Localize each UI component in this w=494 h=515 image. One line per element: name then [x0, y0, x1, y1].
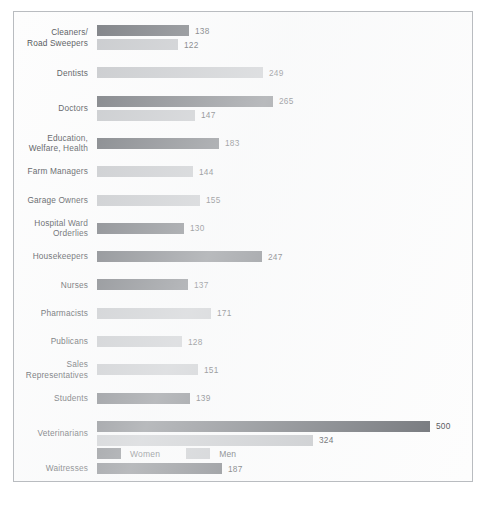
- bar-value-label: 144: [199, 166, 213, 178]
- bar-row-label: Housekeepers: [14, 251, 88, 262]
- bar-value-label: 171: [217, 307, 231, 319]
- bar-line: 128: [97, 336, 472, 347]
- bar-women[interactable]: [97, 25, 189, 36]
- bar-women[interactable]: [97, 393, 190, 404]
- bar-row-label: Veterinarians: [14, 428, 88, 439]
- bar-women[interactable]: [97, 463, 222, 474]
- bar-row-label: Dentists: [14, 68, 88, 79]
- bar-group: 265147: [97, 96, 472, 121]
- bar-value-label: 138: [195, 25, 209, 37]
- bar-value-label: 128: [188, 336, 202, 348]
- bar-women[interactable]: [97, 251, 262, 262]
- bar-group: 247: [97, 251, 472, 262]
- bar-value-label: 139: [196, 392, 210, 404]
- bar-line: 151: [97, 364, 472, 375]
- bar-men[interactable]: [97, 308, 211, 319]
- bar-value-label: 130: [190, 222, 204, 234]
- bar-group: 130: [97, 223, 472, 234]
- bar-row-label: Hospital Ward Orderlies: [14, 218, 88, 239]
- bar-men[interactable]: [97, 67, 263, 78]
- bar-row-label: Garage Owners: [14, 195, 88, 206]
- bar-line: 187: [97, 463, 472, 474]
- bar-women[interactable]: [97, 138, 219, 149]
- bar-group: 128: [97, 336, 472, 347]
- bar-row-label: Cleaners/ Road Sweepers: [14, 27, 88, 48]
- bar-line: 500: [97, 421, 472, 432]
- bar-men[interactable]: [97, 435, 313, 446]
- bar-row-label: Pharmacists: [14, 308, 88, 319]
- bar-group: 155: [97, 195, 472, 206]
- bar-line: 155: [97, 195, 472, 206]
- bar-line: 130: [97, 223, 472, 234]
- bar-group: 139: [97, 393, 472, 404]
- bar-row-label: Sales Representatives: [14, 359, 88, 380]
- bar-line: 265: [97, 96, 472, 107]
- bar-value-label: 183: [225, 137, 239, 149]
- bar-line: 324: [97, 435, 472, 446]
- bar-row-label: Doctors: [14, 103, 88, 114]
- bar-group: 171: [97, 308, 472, 319]
- bar-group: 137: [97, 279, 472, 290]
- bar-men[interactable]: [97, 166, 193, 177]
- chart-legend: WomenMen: [97, 448, 236, 459]
- bar-line: 247: [97, 251, 472, 262]
- legend-label: Women: [130, 449, 160, 459]
- bar-line: 122: [97, 39, 472, 50]
- bar-women[interactable]: [97, 421, 430, 432]
- bar-men[interactable]: [97, 195, 200, 206]
- bar-value-label: 187: [228, 463, 242, 475]
- bar-row-label: Publicans: [14, 336, 88, 347]
- legend-item-men[interactable]: Men: [186, 448, 236, 459]
- bar-group: 138122: [97, 25, 472, 50]
- bar-line: 137: [97, 279, 472, 290]
- bar-line: 144: [97, 166, 472, 177]
- bar-value-label: 155: [206, 194, 220, 206]
- bar-row-label: Students: [14, 393, 88, 404]
- bar-value-label: 147: [201, 109, 215, 121]
- bar-value-label: 122: [184, 39, 198, 51]
- bar-value-label: 151: [204, 364, 218, 376]
- bar-value-label: 249: [269, 67, 283, 79]
- bar-women[interactable]: [97, 96, 273, 107]
- bar-group: 144: [97, 166, 472, 177]
- bar-group: 187: [97, 463, 472, 474]
- bar-row-label: Waitresses: [14, 463, 88, 474]
- bar-group: 183: [97, 138, 472, 149]
- bar-row-label: Farm Managers: [14, 166, 88, 177]
- bar-men[interactable]: [97, 110, 195, 121]
- legend-item-women[interactable]: Women: [97, 448, 160, 459]
- bar-line: 147: [97, 110, 472, 121]
- legend-label: Men: [219, 449, 236, 459]
- legend-swatch-men: [186, 448, 210, 459]
- bar-men[interactable]: [97, 336, 182, 347]
- bar-group: 151: [97, 364, 472, 375]
- bar-women[interactable]: [97, 223, 184, 234]
- bar-chart-plot-area: Cleaners/ Road Sweepers138122Dentists249…: [14, 12, 472, 481]
- bar-value-label: 247: [268, 251, 282, 263]
- bar-value-label: 265: [279, 95, 293, 107]
- bar-group: 249: [97, 67, 472, 78]
- bar-row-label: Nurses: [14, 280, 88, 291]
- bar-group: 500324: [97, 421, 472, 446]
- chart-frame: Cleaners/ Road Sweepers138122Dentists249…: [13, 11, 473, 482]
- bar-line: 249: [97, 67, 472, 78]
- bar-women[interactable]: [97, 279, 188, 290]
- bar-men[interactable]: [97, 39, 178, 50]
- bar-men[interactable]: [97, 364, 198, 375]
- bar-line: 183: [97, 138, 472, 149]
- bar-value-label: 500: [436, 420, 450, 432]
- bar-row-label: Education, Welfare, Health: [14, 133, 88, 154]
- bar-value-label: 324: [319, 434, 333, 446]
- bar-value-label: 137: [194, 279, 208, 291]
- bar-line: 138: [97, 25, 472, 36]
- bar-line: 139: [97, 393, 472, 404]
- legend-swatch-women: [97, 448, 121, 459]
- bar-line: 171: [97, 308, 472, 319]
